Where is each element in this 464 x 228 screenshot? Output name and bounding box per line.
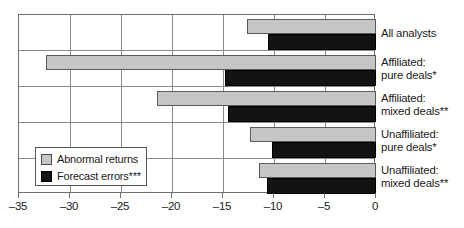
xtick-mark-7 xyxy=(375,193,376,198)
bar-abnormal-returns-affiliated-mixed xyxy=(157,91,376,106)
category-label-line: mixed deals** xyxy=(381,105,464,118)
xtick-mark-1 xyxy=(69,193,70,198)
xtick-mark-6 xyxy=(324,193,325,198)
category-label-unaffiliated-pure: Unaffiliated: pure deals* xyxy=(381,128,464,155)
legend-swatch-black-icon xyxy=(41,171,52,182)
legend-label-forecast-errors: Forecast errors*** xyxy=(57,170,141,182)
bar-abnormal-returns-affiliated-pure xyxy=(46,55,376,70)
bar-forecast-errors-all-analysts xyxy=(268,34,376,50)
category-label-line: All analysts xyxy=(381,27,464,40)
legend-item-abnormal-returns: Abnormal returns xyxy=(41,151,146,167)
bar-forecast-errors-affiliated-mixed xyxy=(228,106,376,122)
xtick-label-minus-30: –30 xyxy=(49,200,89,212)
plot-area: Abnormal returns Forecast errors*** xyxy=(18,14,375,193)
xtick-mark-5 xyxy=(273,193,274,198)
category-label-affiliated-mixed: Affiliated: mixed deals** xyxy=(381,92,464,119)
legend: Abnormal returns Forecast errors*** xyxy=(35,147,147,186)
bar-abnormal-returns-unaffiliated-pure xyxy=(250,127,376,142)
bar-chart: Abnormal returns Forecast errors*** –35 … xyxy=(0,0,464,228)
category-label-unaffiliated-mixed: Unaffiliated: mixed deals** xyxy=(381,164,464,191)
category-label-line: pure deals* xyxy=(381,141,464,154)
bar-abnormal-returns-all-analysts xyxy=(247,19,376,34)
xtick-label-minus-15: –15 xyxy=(202,200,242,212)
row-separator-2 xyxy=(19,86,374,87)
xtick-mark-4 xyxy=(222,193,223,198)
category-label-line: pure deals* xyxy=(381,69,464,82)
xtick-label-minus-25: –25 xyxy=(100,200,140,212)
legend-swatch-gray-icon xyxy=(41,154,52,165)
category-label-line: mixed deals** xyxy=(381,177,464,190)
bar-abnormal-returns-unaffiliated-mixed xyxy=(259,163,376,178)
bar-forecast-errors-affiliated-pure xyxy=(225,70,376,86)
row-separator-1 xyxy=(19,50,374,51)
category-label-line: Unaffiliated: xyxy=(381,164,464,177)
category-label-line: Affiliated: xyxy=(381,56,464,69)
category-label-affiliated-pure: Affiliated: pure deals* xyxy=(381,56,464,83)
category-label-all-analysts: All analysts xyxy=(381,27,464,40)
legend-label-abnormal-returns: Abnormal returns xyxy=(57,153,138,165)
category-label-line: Affiliated: xyxy=(381,92,464,105)
xtick-label-minus-5: –5 xyxy=(304,200,344,212)
category-label-line: Unaffiliated: xyxy=(381,128,464,141)
xtick-mark-3 xyxy=(171,193,172,198)
legend-item-forecast-errors: Forecast errors*** xyxy=(41,168,146,184)
row-separator-3 xyxy=(19,122,374,123)
xtick-label-zero: 0 xyxy=(355,200,395,212)
xtick-mark-2 xyxy=(120,193,121,198)
bar-forecast-errors-unaffiliated-pure xyxy=(272,142,376,158)
xtick-label-minus-20: –20 xyxy=(151,200,191,212)
xtick-label-minus-35: –35 xyxy=(0,200,38,212)
xtick-label-minus-10: –10 xyxy=(253,200,293,212)
xtick-mark-0 xyxy=(18,193,19,198)
bar-forecast-errors-unaffiliated-mixed xyxy=(267,178,376,194)
